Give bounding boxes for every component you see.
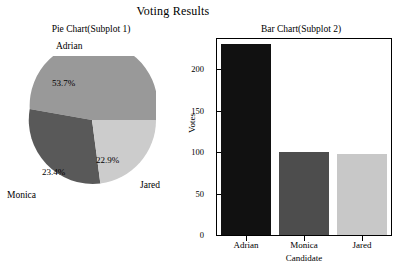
pie-label-jared: Jared xyxy=(140,180,160,190)
bar-monica[interactable] xyxy=(279,152,329,235)
xtick-label-jared: Jared xyxy=(327,240,397,250)
bar-jared[interactable] xyxy=(337,154,387,235)
pie-subplot: Pie Chart(Subplot 1) 53.7% 23.4% 22.9% A… xyxy=(0,0,196,272)
pie-slice-adrian[interactable] xyxy=(30,56,156,120)
bar-series xyxy=(217,39,391,235)
ytick-label-100: 100 xyxy=(174,147,204,157)
pie-chart-title: Pie Chart(Subplot 1) xyxy=(0,24,182,34)
bar-chart-title: Bar Chart(Subplot 2) xyxy=(206,24,396,34)
pie-label-adrian: Adrian xyxy=(56,41,82,51)
bar-subplot: Bar Chart(Subplot 2) 0 50 100 150 200 Ad… xyxy=(196,0,406,272)
pie-chart xyxy=(28,56,156,184)
pie-label-monica: Monica xyxy=(7,190,36,200)
figure-canvas: Voting Results Pie Chart(Subplot 1) 53.7… xyxy=(0,0,406,272)
pie-slice-jared[interactable] xyxy=(92,120,156,184)
pie-percent-monica: 23.4% xyxy=(42,167,65,177)
ytick-mark-0 xyxy=(216,235,222,236)
ytick-label-200: 200 xyxy=(174,64,204,74)
pie-percent-jared: 22.9% xyxy=(96,155,119,165)
pie-percent-adrian: 53.7% xyxy=(52,78,75,88)
ytick-label-50: 50 xyxy=(174,189,204,199)
bar-yaxis-title: Votes xyxy=(187,113,197,133)
bar-xaxis-title: Candidate xyxy=(216,253,392,263)
pie-svg xyxy=(28,56,156,184)
ytick-label-0: 0 xyxy=(174,230,204,240)
bar-adrian[interactable] xyxy=(221,44,271,235)
